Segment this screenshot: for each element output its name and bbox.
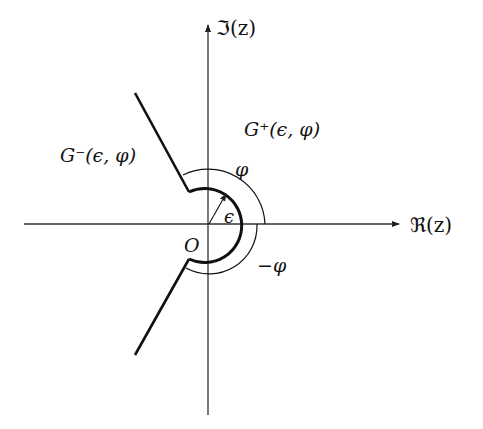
region-g-minus-label: G⁻(ϵ, φ) bbox=[60, 144, 136, 166]
complex-plane-diagram: ℑ(z) ℜ(z) O G⁺(ϵ, φ) G⁻(ϵ, φ) φ −φ ϵ bbox=[0, 0, 483, 429]
origin-label: O bbox=[184, 234, 200, 256]
upper-boundary-ray bbox=[135, 93, 189, 192]
real-axis-label: ℜ(z) bbox=[410, 213, 452, 237]
positive-angle-label: φ bbox=[235, 158, 249, 180]
lower-boundary-ray bbox=[135, 259, 189, 355]
imaginary-axis-label: ℑ(z) bbox=[216, 16, 256, 40]
negative-angle-label: −φ bbox=[257, 254, 287, 276]
epsilon-label: ϵ bbox=[224, 206, 234, 227]
region-g-plus-label: G⁺(ϵ, φ) bbox=[244, 118, 320, 140]
